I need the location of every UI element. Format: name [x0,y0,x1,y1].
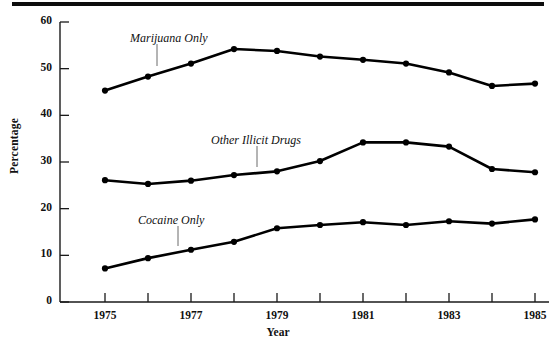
data-point [446,144,452,150]
data-point [532,169,538,175]
y-axis-tick-label: 50 [18,61,52,73]
y-axis-tick-label: 10 [18,247,52,259]
data-point [231,46,237,52]
data-point [231,172,237,178]
data-point [274,48,280,54]
data-point [274,168,280,174]
data-point [188,178,194,184]
data-point [489,83,495,89]
data-point [532,216,538,222]
y-axis-tick-label: 20 [18,201,52,213]
x-axis-tick-label: 1975 [75,309,135,321]
data-point [489,221,495,227]
data-point [446,69,452,75]
data-point [188,60,194,66]
series-label-1: Other Illicit Drugs [211,133,301,148]
data-point [274,225,280,231]
series-label-0: Marijuana Only [130,31,208,46]
y-axis-tick-label: 0 [18,294,52,306]
data-point [489,166,495,172]
chart-figure: Percentage Year 0102030405060 1975197719… [0,0,556,348]
data-point [360,219,366,225]
data-point [403,222,409,228]
x-axis-tick-label: 1981 [333,309,393,321]
data-point [317,222,323,228]
y-axis-tick-label: 30 [18,154,52,166]
data-point [145,74,151,80]
x-axis-tick-label: 1983 [419,309,479,321]
data-point [403,60,409,66]
x-axis-tick-label: 1985 [505,309,556,321]
y-axis-tick-label: 60 [18,14,52,26]
data-point [317,53,323,59]
data-point [532,81,538,87]
x-axis-title: Year [0,326,556,338]
x-axis-tick-label: 1977 [161,309,221,321]
data-point [317,158,323,164]
series-label-2: Cocaine Only [138,213,204,228]
data-point [403,139,409,145]
data-point [145,255,151,261]
x-axis-tick-label: 1979 [247,309,307,321]
y-axis-tick-label: 40 [18,107,52,119]
data-point [102,88,108,94]
data-point [446,218,452,224]
data-point [360,57,366,63]
data-point [145,181,151,187]
data-point [360,139,366,145]
line-chart-plot [0,0,556,348]
data-point [102,265,108,271]
data-point [102,177,108,183]
data-point [188,247,194,253]
data-point [231,239,237,245]
